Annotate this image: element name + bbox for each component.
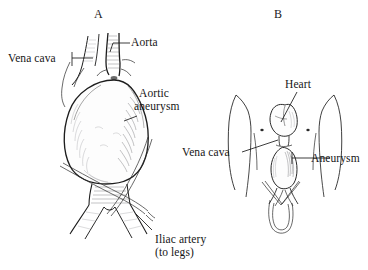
aneurysm-organ-b — [269, 147, 298, 206]
label-aortic-aneurysm-line1: Aortic — [139, 87, 169, 100]
heart-organ-b — [270, 104, 297, 146]
label-vena-cava-a: Vena cava — [8, 52, 56, 65]
aorta-vessel-a — [97, 33, 135, 80]
label-aneurysm-b: Aneurysm — [311, 152, 360, 165]
figure-illustration: A B Vena cava Aorta Aortic aneurysm Ilia… — [0, 0, 368, 270]
panel-letter-a: A — [94, 7, 103, 22]
vena-cava-leader-b — [242, 140, 278, 152]
label-vena-cava-b: Vena cava — [182, 146, 230, 159]
label-aorta-a: Aorta — [131, 36, 158, 49]
label-aortic-aneurysm-line2: aneurysm — [134, 100, 180, 113]
label-iliac-artery-line1: Iliac artery — [155, 233, 206, 246]
label-heart-b: Heart — [285, 78, 311, 91]
anatomy-drawing — [0, 0, 368, 270]
aorta-leader-hook-a — [110, 43, 113, 52]
nipple-right — [306, 129, 309, 132]
nipple-left — [260, 129, 263, 132]
panel-letter-b: B — [274, 7, 282, 22]
label-iliac-artery-line2: (to legs) — [155, 246, 194, 259]
panel-a-drawing — [60, 33, 155, 239]
